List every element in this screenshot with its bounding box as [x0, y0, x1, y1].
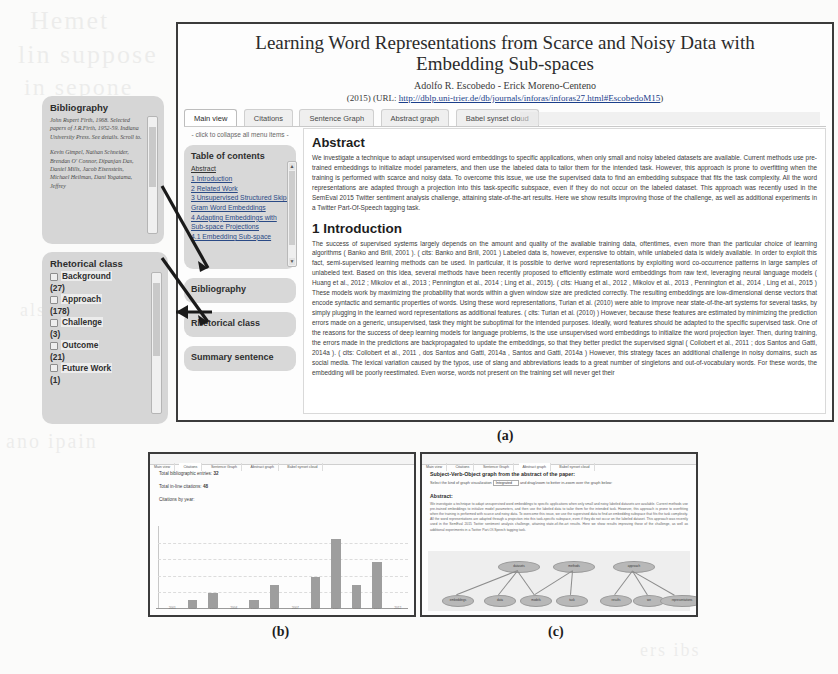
chart-x-tick-label: 2004	[230, 606, 237, 610]
toc-item-adapting[interactable]: 4 Adapting Embeddings with Sub-space Pro…	[191, 213, 289, 232]
panel-b-tab-babel-cloud[interactable]: Babel synset cloud	[283, 463, 322, 471]
sidebar-section-rhetorical-class[interactable]: Rhetorical class	[184, 312, 296, 337]
chart-gridline	[158, 543, 408, 544]
stat-bibliographic-entries-label: Total bibliographic entries:	[159, 471, 212, 476]
tab-sentence-graph[interactable]: Sentence Graph	[299, 109, 374, 126]
paper-header: Learning Word Representations from Scarc…	[178, 24, 832, 105]
toc-title: Table of contents	[191, 151, 289, 161]
panel-b-tab-citations[interactable]: Citations	[179, 463, 202, 471]
rhetorical-class-row-outcome[interactable]: Outcome	[50, 341, 160, 351]
panel-c-tab-sentence-graph[interactable]: Sentence Graph	[479, 463, 514, 471]
rhetorical-class-label: Outcome	[61, 340, 99, 350]
toc-item-embedding-sub[interactable]: 4.1 Embedding Sub-space	[191, 232, 289, 242]
scroll-up-icon[interactable]: ▲	[289, 163, 295, 170]
paper-url-line: (2015) (URL: http://dblp.uni-trier.de/db…	[218, 93, 792, 103]
chart-gridline	[158, 592, 408, 593]
sidebar-section-table-of-contents[interactable]: Table of contents Abstract 1 Introductio…	[184, 145, 296, 269]
sidebar-item-label-summary: Summary sentence	[191, 352, 289, 362]
panel-a-main-application: Learning Word Representations from Scarc…	[176, 22, 834, 422]
collapse-menu-note[interactable]: - click to collapse all menu items -	[184, 130, 296, 139]
bibliography-scrollbar-thumb[interactable]	[149, 127, 156, 187]
rhetorical-class-count: (27)	[50, 283, 160, 293]
checkbox-icon[interactable]	[50, 296, 58, 304]
paper-dblp-link[interactable]: http://dblp.uni-trier.de/db/journals/inf…	[399, 93, 661, 103]
stat-bibliographic-entries-value: 32	[213, 471, 218, 476]
panel-c-subline-post: and drag/zoom to better in-zoom over the…	[520, 481, 612, 485]
chart-gridline	[158, 576, 408, 577]
tab-main-view[interactable]: Main view	[184, 109, 237, 126]
graph-node[interactable]: data	[484, 595, 516, 607]
graph-edge	[614, 570, 633, 595]
checkbox-icon[interactable]	[50, 342, 58, 350]
toc-item-related-work[interactable]: 2 Related Work	[191, 184, 289, 194]
panel-c-abstract-heading: Abstract:	[422, 486, 696, 499]
rhetorical-scrollbar-thumb[interactable]	[153, 283, 160, 356]
tab-citations[interactable]: Citations	[244, 109, 293, 126]
graph-visualization-select[interactable]: Integrated	[493, 480, 519, 486]
toc-scrollbar[interactable]: ▲ ▼	[287, 161, 297, 267]
bibliography-entry[interactable]: Kevin Gimpel, Nathan Schneider, Brendan …	[50, 148, 142, 190]
chart-bar[interactable]	[372, 562, 381, 608]
graph-node[interactable]: embeddings	[442, 595, 474, 607]
panel-c-tab-main-view[interactable]: Main view	[422, 463, 447, 471]
checkbox-icon[interactable]	[50, 364, 58, 372]
rhetorical-class-label: Challenge	[61, 317, 103, 327]
panel-c-tab-babel-cloud[interactable]: Babel synset cloud	[555, 463, 594, 471]
panel-b-tab-main-view[interactable]: Main view	[150, 463, 175, 471]
chart-bar[interactable]	[270, 585, 279, 608]
panel-c-abstract-text: We investigate a technique to adapt unsu…	[422, 499, 696, 533]
subject-verb-object-graph[interactable]: datasetsmethodsapproachembeddingsdatamod…	[428, 551, 690, 611]
checkbox-icon[interactable]	[50, 273, 58, 281]
graph-node[interactable]: results	[600, 595, 632, 607]
chart-bar[interactable]	[208, 593, 217, 608]
chart-bar[interactable]	[311, 577, 320, 608]
rhetorical-callout-title: Rhetorical class	[50, 258, 160, 269]
sidebar-section-summary-sentence[interactable]: Summary sentence	[184, 346, 296, 371]
document-content-area: Abstract We investigate a technique to a…	[303, 128, 826, 414]
rhetorical-class-callout-panel: Rhetorical class Background (27) Approac…	[42, 252, 168, 424]
sidebar-item-label-bibliography: Bibliography	[191, 284, 289, 294]
chart-bar[interactable]	[249, 600, 258, 608]
stat-bibliographic-entries: Total bibliographic entries: 32	[159, 471, 405, 476]
panel-c-tab-citations[interactable]: Citations	[451, 463, 474, 471]
ghost-text: Hemet	[30, 6, 109, 36]
introduction-heading: 1 Introduction	[312, 221, 817, 236]
paper-title-line1: Learning Word Representations from Scarc…	[255, 32, 754, 53]
chart-bar[interactable]	[352, 585, 361, 608]
rhetorical-class-row-future-work[interactable]: Future Work	[50, 364, 160, 374]
graph-edge	[517, 571, 535, 596]
rhetorical-class-row-background[interactable]: Background	[50, 272, 160, 282]
toc-item-introduction[interactable]: 1 Introduction	[191, 174, 289, 184]
chart-bar[interactable]	[188, 600, 197, 608]
graph-node[interactable]: models	[520, 595, 552, 607]
graph-node[interactable]: datasets	[498, 561, 540, 573]
chart-bar[interactable]	[331, 539, 340, 608]
rhetorical-class-row-challenge[interactable]: Challenge	[50, 318, 160, 328]
toc-scrollbar-thumb[interactable]	[289, 171, 295, 245]
graph-edge	[570, 571, 573, 595]
ghost-text: ers ibs	[640, 640, 701, 661]
bibliography-scrollbar[interactable]	[147, 116, 158, 234]
sidebar-section-bibliography[interactable]: Bibliography	[184, 278, 296, 303]
rhetorical-class-label: Future Work	[61, 363, 112, 373]
panel-b-tab-bar: Main view Citations Sentence Graph Abstr…	[150, 454, 414, 465]
graph-node[interactable]: representations	[660, 595, 698, 607]
rhetorical-scrollbar[interactable]	[151, 272, 162, 414]
graph-node[interactable]: task	[556, 595, 588, 607]
scroll-down-icon[interactable]: ▼	[289, 258, 295, 265]
rhetorical-class-label: Approach	[61, 294, 102, 304]
chart-caption: Citations by year:	[159, 497, 405, 502]
figure-caption-c: (c)	[548, 624, 564, 640]
paper-authors: Adolfo R. Escobedo - Erick Moreno-Centen…	[218, 80, 792, 91]
panel-b-tab-abstract-graph[interactable]: Abstract graph	[247, 463, 279, 471]
bibliography-entry[interactable]: John Rupert Firth, 1968. Selected papers…	[50, 116, 142, 141]
panel-b-tab-sentence-graph[interactable]: Sentence Graph	[207, 463, 242, 471]
stat-inline-citations-value: 48	[203, 484, 208, 489]
checkbox-icon[interactable]	[50, 319, 58, 327]
panel-c-tab-abstract-graph[interactable]: Abstract graph	[519, 463, 551, 471]
toc-item-abstract[interactable]: Abstract	[191, 164, 289, 174]
tab-abstract-graph[interactable]: Abstract graph	[381, 109, 450, 126]
toc-item-unsupervised[interactable]: 3 Unsupervised Structured Skip-Gram Word…	[191, 193, 289, 212]
rhetorical-class-row-approach[interactable]: Approach	[50, 295, 160, 305]
graph-node[interactable]: methods	[553, 561, 595, 573]
